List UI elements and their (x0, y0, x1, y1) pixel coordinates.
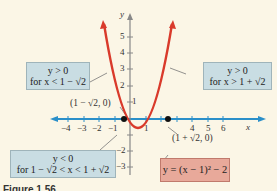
annotation-line: y < 0 (14, 153, 112, 164)
point-right-root (165, 116, 171, 122)
equation-label: y = (x − 1)² − 2 (160, 158, 230, 182)
y-tick-label: 1 (132, 96, 137, 106)
x-tick-label: −3 (77, 123, 87, 133)
figure-caption: Figure 1.56 (3, 184, 56, 191)
x-axis-label: x (246, 122, 250, 132)
parabola-curve (104, 24, 172, 128)
x-tick-label: −1 (108, 123, 118, 133)
annotation-line: y > 0 (207, 65, 268, 76)
y-tick-label: 3 (120, 63, 125, 73)
right-root-label: (1 + √2, 0) (172, 133, 213, 143)
y-tick-label: −3 (116, 161, 126, 171)
annotation-line: for x < 1 − √2 (30, 76, 86, 87)
y-tick-label: 4 (120, 47, 125, 57)
x-tick-label: −4 (61, 123, 71, 133)
y-axis (127, 13, 133, 175)
y-axis-label: y (120, 9, 124, 19)
annotation-right-positive: y > 0 for x > 1 + √2 (203, 62, 272, 90)
left-root-label: (1 − √2, 0) (70, 98, 111, 108)
annotation-line: for 1 − √2 < x < 1 + √2 (14, 164, 112, 175)
annotation-left-positive: y > 0 for x < 1 − √2 (26, 62, 90, 90)
x-tick-label: 1 (144, 123, 149, 133)
x-tick-label: 5 (206, 123, 211, 133)
x-tick-label: 6 (221, 123, 226, 133)
annotation-line: y > 0 (30, 65, 86, 76)
callout-lines (90, 68, 186, 160)
x-tick-label: 4 (190, 123, 195, 133)
y-tick-label: 2 (120, 80, 125, 90)
annotation-line: for x > 1 + √2 (207, 76, 268, 87)
point-left-root (121, 116, 127, 122)
y-tick-label: 5 (120, 31, 125, 41)
y-tick-label: −2 (116, 145, 126, 155)
x-tick-label: −2 (92, 123, 102, 133)
x-axis (50, 116, 266, 122)
annotation-negative: y < 0 for 1 − √2 < x < 1 + √2 (10, 150, 116, 178)
